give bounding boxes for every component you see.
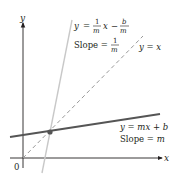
x-axis-label: x <box>164 153 169 163</box>
inverse-eq-x: x <box>103 21 108 31</box>
inverse-eq-y: y <box>73 21 79 31</box>
inverse-eq-equals: = <box>83 21 90 31</box>
original-slope-label: Slope = m <box>120 134 165 144</box>
intersection-point <box>47 129 52 134</box>
inverse-eq-frac1-num: 1 <box>95 18 99 26</box>
inverse-eq-minus: − <box>111 21 118 31</box>
inverse-eq-frac1-den: m <box>93 27 100 35</box>
inverse-slope-label: Slope = 1 m <box>74 37 119 54</box>
inverse-slope-den: m <box>111 46 118 54</box>
original-slope-text: Slope = m <box>120 134 165 144</box>
original-slope-prefix: Slope = <box>120 134 157 144</box>
y-axis-label: y <box>19 13 26 23</box>
inverse-eq-frac2-den: m <box>120 27 127 35</box>
inverse-slope-num: 1 <box>113 37 117 45</box>
original-equation-label: y = mx + b <box>119 122 168 132</box>
original-slope-m: m <box>157 134 165 144</box>
inverse-equation-label: y = 1 m x − b m <box>73 18 129 35</box>
inverse-line <box>42 20 72 173</box>
origin-label: 0 <box>14 162 19 172</box>
identity-equation-label: y = x <box>138 42 161 52</box>
inverse-slope-text: Slope = <box>74 40 108 50</box>
inverse-line-diagram: y x 0 y = 1 m x − b m Slope = 1 m y = x … <box>0 0 179 183</box>
inverse-eq-frac2-num: b <box>122 18 127 26</box>
